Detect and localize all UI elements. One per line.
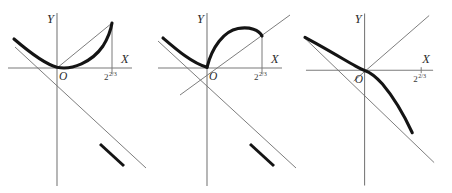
tick-label-base: 2: [413, 74, 417, 84]
three-panel-figure: X Y O 2 2/3 X Y O: [0, 0, 452, 193]
thick-curve-arch: [207, 28, 262, 67]
origin-label: O: [209, 70, 218, 82]
middle-panel: X Y O 2 2/3: [150, 0, 301, 193]
tick-label-exponent: 2/3: [418, 73, 426, 79]
x-axis-label: X: [120, 52, 130, 66]
thick-curve-valley: [14, 23, 112, 68]
x-axis-label: X: [270, 52, 280, 66]
tick-label-base: 2: [254, 72, 259, 82]
origin-label: O: [355, 73, 363, 85]
thick-curve-left-branch: [163, 38, 207, 67]
y-axis-label: Y: [355, 12, 363, 26]
origin-label: O: [59, 70, 68, 82]
thick-parallel-segment: [100, 144, 124, 166]
tick-label-base: 2: [104, 72, 109, 82]
thin-descending-line: [305, 38, 434, 162]
x-axis-label: X: [421, 52, 430, 66]
y-axis-label: Y: [47, 12, 56, 26]
tick-label-exponent: 2/3: [109, 70, 117, 77]
right-panel: X Y O 2 2/3: [300, 0, 451, 193]
y-axis-label: Y: [197, 12, 206, 26]
thick-parallel-segment: [250, 144, 274, 166]
tick-label-exponent: 2/3: [259, 70, 267, 77]
left-panel: X Y O 2 2/3: [0, 0, 151, 193]
